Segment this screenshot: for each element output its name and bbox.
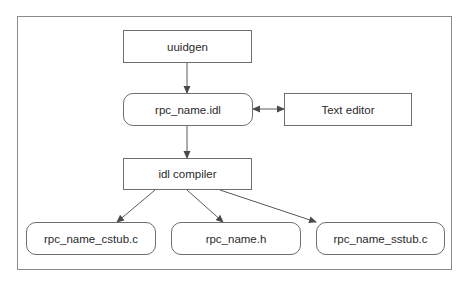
node-label: idl compiler — [158, 168, 216, 180]
node-rpc-name-h: rpc_name.h — [171, 222, 301, 255]
node-rpc-name-idl: rpc_name.idl — [123, 93, 253, 126]
node-rpc-name-sstub: rpc_name_sstub.c — [316, 222, 445, 255]
node-rpc-name-cstub: rpc_name_cstub.c — [26, 222, 156, 255]
node-label: rpc_name_sstub.c — [334, 233, 428, 245]
node-uuidgen: uuidgen — [123, 30, 252, 63]
node-label: rpc_name_cstub.c — [44, 233, 138, 245]
node-label: rpc_name.h — [206, 233, 267, 245]
node-text-editor: Text editor — [284, 93, 412, 126]
node-idl-compiler: idl compiler — [123, 158, 252, 190]
node-label: uuidgen — [167, 41, 208, 53]
node-label: Text editor — [321, 104, 374, 116]
node-label: rpc_name.idl — [155, 104, 221, 116]
